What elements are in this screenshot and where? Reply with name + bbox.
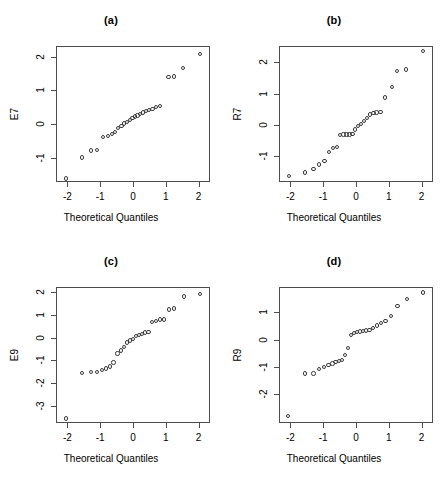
y-tick-mark <box>274 394 279 395</box>
x-tick-label: -2 <box>55 191 79 202</box>
data-point <box>80 155 84 159</box>
panel-c: (c)-3-2-1012-2-1012E9Theoretical Quantil… <box>0 241 222 481</box>
data-point <box>322 159 326 163</box>
data-point <box>108 364 112 368</box>
y-tick-mark <box>51 315 56 316</box>
y-tick-label: 1 <box>34 83 48 97</box>
y-tick-label: -2 <box>34 376 48 390</box>
x-tick-mark <box>100 423 101 428</box>
x-axis-label: Theoretical Quantiles <box>223 212 445 223</box>
y-tick-mark <box>51 406 56 407</box>
y-tick-mark <box>274 312 279 313</box>
x-tick-label: 0 <box>121 432 145 443</box>
x-tick-label: -1 <box>88 432 112 443</box>
y-tick-mark <box>274 367 279 368</box>
data-point <box>167 307 171 311</box>
y-tick-label: -1 <box>34 151 48 165</box>
x-tick-mark <box>422 182 423 187</box>
y-tick-label: -1 <box>257 360 271 374</box>
panel-d: (d)-2-101-2-1012R9Theoretical Quantiles <box>223 241 445 481</box>
y-tick-label: 2 <box>34 285 48 299</box>
x-tick-label: -1 <box>88 191 112 202</box>
y-tick-label: 0 <box>257 118 271 132</box>
data-point <box>383 319 387 323</box>
y-tick-mark <box>274 340 279 341</box>
x-tick-label: 2 <box>410 432 434 443</box>
y-tick-label: 1 <box>257 305 271 319</box>
y-axis-label-text: E7 <box>8 46 22 182</box>
y-tick-label: 1 <box>257 87 271 101</box>
data-point <box>383 95 387 99</box>
x-axis-label: Theoretical Quantiles <box>223 453 445 464</box>
data-point <box>390 85 394 89</box>
y-tick-label: -1 <box>34 353 48 367</box>
x-tick-mark <box>356 423 357 428</box>
y-axis-label-text: R7 <box>231 46 245 182</box>
y-tick-label: 2 <box>257 55 271 69</box>
y-tick-label: 1 <box>34 308 48 322</box>
y-tick-mark <box>51 338 56 339</box>
panel-title: (a) <box>0 14 222 27</box>
x-tick-mark <box>67 423 68 428</box>
y-tick-label: 0 <box>257 333 271 347</box>
x-tick-label: -2 <box>278 432 302 443</box>
y-axis-label: E9 <box>8 287 22 423</box>
qq-plot-figure: (a)-1012-2-1012E7Theoretical Quantiles(b… <box>0 0 445 481</box>
y-tick-mark <box>51 360 56 361</box>
x-tick-label: 2 <box>187 432 211 443</box>
y-tick-mark <box>51 124 56 125</box>
x-tick-mark <box>422 423 423 428</box>
y-tick-mark <box>51 158 56 159</box>
x-tick-label: 0 <box>121 191 145 202</box>
plot-area <box>279 46 433 182</box>
data-point <box>421 290 425 294</box>
data-point <box>111 360 115 364</box>
data-point <box>311 371 315 375</box>
y-tick-mark <box>274 125 279 126</box>
y-tick-mark <box>274 156 279 157</box>
data-point <box>378 110 382 114</box>
data-point <box>89 148 93 152</box>
x-tick-mark <box>133 423 134 428</box>
y-tick-mark <box>274 94 279 95</box>
data-point <box>311 167 315 171</box>
panel-b: (b)-1012-2-1012R7Theoretical Quantiles <box>223 0 445 240</box>
data-point <box>166 75 170 79</box>
y-axis-label: R9 <box>231 287 245 423</box>
x-tick-label: 2 <box>410 191 434 202</box>
panel-a: (a)-1012-2-1012E7Theoretical Quantiles <box>0 0 222 240</box>
plot-area <box>56 287 210 423</box>
x-tick-mark <box>290 423 291 428</box>
x-tick-mark <box>323 423 324 428</box>
y-tick-mark <box>51 90 56 91</box>
panel-title: (d) <box>223 255 445 268</box>
y-tick-label: 0 <box>34 331 48 345</box>
data-point <box>95 370 99 374</box>
x-axis-label: Theoretical Quantiles <box>0 212 222 223</box>
x-tick-label: 1 <box>377 432 401 443</box>
y-tick-mark <box>274 62 279 63</box>
x-tick-label: -2 <box>55 432 79 443</box>
y-tick-mark <box>51 57 56 58</box>
x-tick-mark <box>389 423 390 428</box>
x-tick-mark <box>166 182 167 187</box>
data-point <box>64 416 68 420</box>
x-tick-mark <box>389 182 390 187</box>
data-point <box>146 330 150 334</box>
y-tick-label: -2 <box>257 387 271 401</box>
x-tick-mark <box>100 182 101 187</box>
x-tick-label: 0 <box>344 191 368 202</box>
plot-area <box>279 287 433 423</box>
data-point <box>182 294 186 298</box>
panel-title: (c) <box>0 255 222 268</box>
data-point <box>172 306 176 310</box>
x-tick-mark <box>166 423 167 428</box>
x-axis-label: Theoretical Quantiles <box>0 453 222 464</box>
y-tick-label: 0 <box>34 117 48 131</box>
x-tick-mark <box>356 182 357 187</box>
y-axis-label-text: R9 <box>231 287 245 423</box>
y-tick-label: -3 <box>34 399 48 413</box>
x-tick-mark <box>199 182 200 187</box>
data-point <box>119 348 123 352</box>
x-tick-mark <box>67 182 68 187</box>
